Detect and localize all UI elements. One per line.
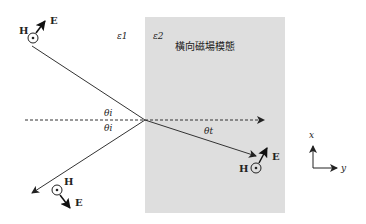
epsilon2-label: ε2 (153, 31, 164, 41)
transmitted-angle-label: θt (204, 126, 213, 136)
transmitted-H-label: H (239, 163, 248, 174)
incident-angle-label: θi (104, 108, 112, 118)
mode-caption: 橫向磁場模態 (175, 40, 235, 52)
diagram-canvas: H E H E H E ε1 ε2 橫向磁場模態 θi θi θt x y (0, 0, 366, 224)
reflected-field-symbol (52, 185, 70, 208)
reflected-ray (32, 120, 145, 193)
reflected-angle-label: θi (104, 123, 112, 133)
x-axis-label: x (309, 130, 314, 140)
transmitted-E-label: E (272, 151, 280, 162)
y-axis-label: y (340, 163, 347, 173)
epsilon1-label: ε1 (117, 31, 128, 41)
reflected-E-label: E (75, 197, 83, 208)
reflected-H-label: H (64, 176, 73, 187)
incident-H-label: H (19, 25, 28, 36)
incident-ray (32, 46, 145, 120)
incident-field-symbol (28, 21, 45, 43)
axes-indicator (313, 146, 337, 168)
incident-E-label: E (50, 15, 58, 26)
